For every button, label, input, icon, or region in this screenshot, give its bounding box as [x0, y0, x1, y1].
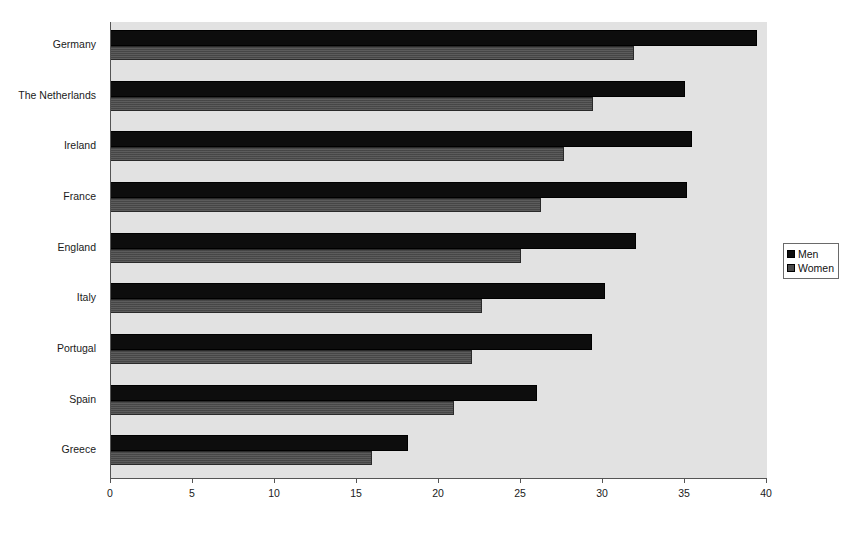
bar-women: [111, 299, 482, 313]
x-tick-label: 40: [760, 487, 772, 499]
category-label: Ireland: [0, 140, 96, 151]
bar-women: [111, 97, 593, 111]
category-label: Italy: [0, 292, 96, 303]
category-label: Spain: [0, 394, 96, 405]
bar-women: [111, 46, 634, 60]
x-tick: [110, 479, 111, 483]
category-label: Germany: [0, 39, 96, 50]
category-label: France: [0, 191, 96, 202]
bar-women: [111, 147, 564, 161]
bar-women: [111, 451, 372, 465]
bar-men: [111, 182, 687, 198]
bar-men: [111, 283, 605, 299]
x-tick: [356, 479, 357, 483]
x-tick-label: 5: [189, 487, 195, 499]
bar-men: [111, 334, 592, 350]
x-tick-label: 15: [350, 487, 362, 499]
category-label: England: [0, 242, 96, 253]
legend-swatch-women-icon: [787, 264, 795, 272]
category-label: Portugal: [0, 343, 96, 354]
x-tick: [602, 479, 603, 483]
legend-label: Men: [798, 249, 818, 260]
bar-men: [111, 30, 757, 46]
x-tick: [766, 479, 767, 483]
x-axis-ticks: [110, 479, 766, 484]
chart-legend: MenWomen: [783, 243, 839, 279]
x-tick-label: 20: [432, 487, 444, 499]
x-tick: [520, 479, 521, 483]
legend-swatch-men-icon: [787, 250, 795, 258]
category-axis: GermanyThe NetherlandsIrelandFranceEngla…: [0, 22, 104, 478]
x-tick: [684, 479, 685, 483]
bar-chart: GermanyThe NetherlandsIrelandFranceEngla…: [0, 0, 859, 539]
bar-women: [111, 198, 541, 212]
legend-item-women[interactable]: Women: [787, 261, 834, 275]
bar-men: [111, 435, 408, 451]
bar-women: [111, 401, 454, 415]
x-tick: [438, 479, 439, 483]
category-label: The Netherlands: [0, 90, 96, 101]
bar-men: [111, 385, 537, 401]
bar-women: [111, 350, 472, 364]
x-tick-label: 25: [514, 487, 526, 499]
x-tick: [192, 479, 193, 483]
x-tick: [274, 479, 275, 483]
x-tick-label: 10: [268, 487, 280, 499]
bars-container: [111, 22, 767, 478]
legend-item-men[interactable]: Men: [787, 247, 834, 261]
bar-women: [111, 249, 521, 263]
bar-men: [111, 81, 685, 97]
x-tick-label: 35: [678, 487, 690, 499]
bar-men: [111, 233, 636, 249]
x-axis-labels: 0510152025303540: [110, 487, 766, 503]
x-tick-label: 30: [596, 487, 608, 499]
x-tick-label: 0: [107, 487, 113, 499]
legend-label: Women: [798, 263, 834, 274]
category-label: Greece: [0, 444, 96, 455]
plot-area: [110, 22, 767, 479]
bar-men: [111, 131, 692, 147]
